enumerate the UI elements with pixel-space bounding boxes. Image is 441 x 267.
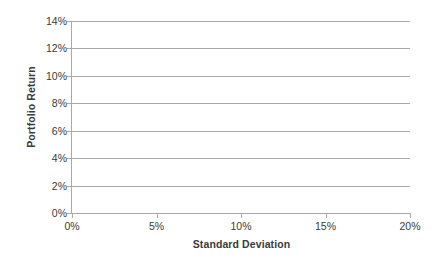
y-axis-tick-label: 14% — [38, 16, 67, 27]
chart-container: Portfolio Return 0%2%4%6%8%10%12%14% 0%5… — [0, 0, 441, 267]
x-axis-tick — [326, 213, 327, 218]
y-axis-tick-label: 6% — [38, 125, 67, 136]
x-axis-tick-label: 0% — [64, 221, 79, 232]
gridline-y — [72, 158, 410, 159]
x-axis-tick-label: 15% — [315, 221, 336, 232]
x-axis-tick — [157, 213, 158, 218]
x-axis-tick-label: 10% — [230, 221, 251, 232]
gridline-y — [72, 48, 410, 49]
y-axis-tick-label: 2% — [38, 180, 67, 191]
y-axis-tick-label: 12% — [38, 43, 67, 54]
x-axis-tick — [241, 213, 242, 218]
x-axis-tick-label: 20% — [399, 221, 420, 232]
gridline-y — [72, 103, 410, 104]
y-axis-tick-label: 8% — [38, 98, 67, 109]
y-axis-tick-label: 0% — [38, 208, 67, 219]
x-axis-title: Standard Deviation — [72, 238, 411, 250]
y-axis-tick-label: 4% — [38, 153, 67, 164]
gridline-y — [72, 76, 410, 77]
gridline-y — [72, 21, 410, 22]
x-axis-tick — [72, 213, 73, 218]
y-axis-title-text: Portfolio Return — [25, 66, 37, 148]
y-axis-tick-label: 10% — [38, 71, 67, 82]
plot-area — [72, 21, 410, 213]
x-axis-tick — [410, 213, 411, 218]
x-axis-tick-label: 5% — [149, 221, 164, 232]
y-axis-tick-labels: 0%2%4%6%8%10%12%14% — [38, 21, 67, 213]
gridline-y — [72, 131, 410, 132]
gridline-y — [72, 186, 410, 187]
